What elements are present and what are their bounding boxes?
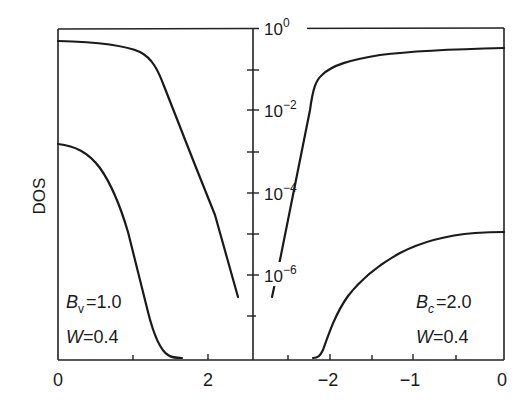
x-tick-label-right-m2: −2 [318,370,339,390]
x-tick-label-left-0: 0 [53,370,63,390]
left-annotation-b: Bv=1.0 [66,292,122,316]
left-upper-curve [58,41,238,297]
x-tick-labels: 0 2 −2 −1 0 [53,370,507,390]
left-annotation-w: W=0.4 [66,327,119,347]
right-annotation: Bc=2.0 W=0.4 [416,292,472,347]
right-lower-curve [313,232,504,358]
right-annotation-w: W=0.4 [416,327,469,347]
left-annotation: Bv=1.0 W=0.4 [66,292,122,347]
y-tick-labels: 100 10−2 10−4 10−6 [264,16,297,286]
x-tick-label-right-0: 0 [497,370,507,390]
right-annotation-b: Bc=2.0 [416,292,472,316]
y-axis-label: DOS [30,178,49,215]
x-tick-label-right-m1: −1 [400,370,421,390]
dos-chart: 100 10−2 10−4 10−6 0 2 −2 −1 0 DOS Bv=1.… [0,0,532,407]
left-lower-curve [58,144,182,358]
x-tick-label-left-2: 2 [203,370,213,390]
